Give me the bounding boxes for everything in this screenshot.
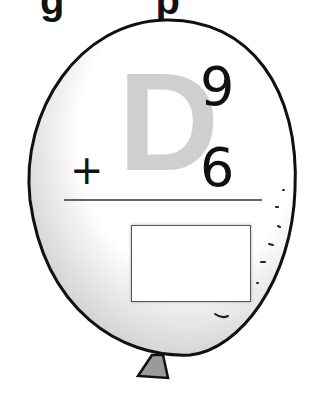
bottom-number: 6 bbox=[200, 141, 234, 195]
top-number: 9 bbox=[200, 60, 234, 114]
answer-box[interactable] bbox=[131, 225, 251, 302]
operator: + bbox=[70, 150, 104, 190]
